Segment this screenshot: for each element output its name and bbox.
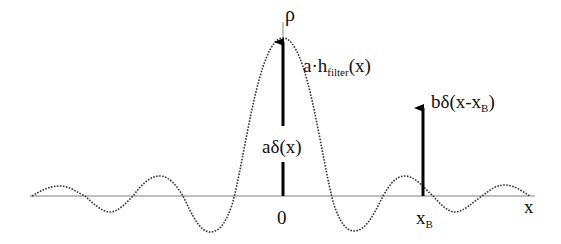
origin-tick-label: 0 (277, 208, 287, 227)
curve-label: a·hfilter(x) (303, 56, 371, 78)
offset-impulse-suffix: ) (488, 91, 494, 112)
filter-response-curve (32, 38, 530, 232)
curve-label-prefix: a·h (303, 55, 327, 76)
offset-impulse-prefix: bδ(x-x (431, 91, 481, 112)
y-axis-label: ρ (285, 4, 295, 24)
offset-impulse-label: bδ(x-xB) (431, 92, 495, 114)
diagram-canvas: ρ a·hfilter(x) aδ(x) bδ(x-xB) 0 xB x (0, 0, 561, 244)
xb-tick-label: xB (416, 208, 433, 230)
xb-tick-main: x (416, 207, 426, 228)
x-axis-label: x (524, 197, 534, 216)
curve-label-suffix: (x) (349, 55, 371, 76)
center-impulse-label: aδ(x) (262, 137, 302, 156)
curve-label-sub: filter (327, 66, 348, 78)
xb-tick-sub: B (426, 218, 433, 230)
